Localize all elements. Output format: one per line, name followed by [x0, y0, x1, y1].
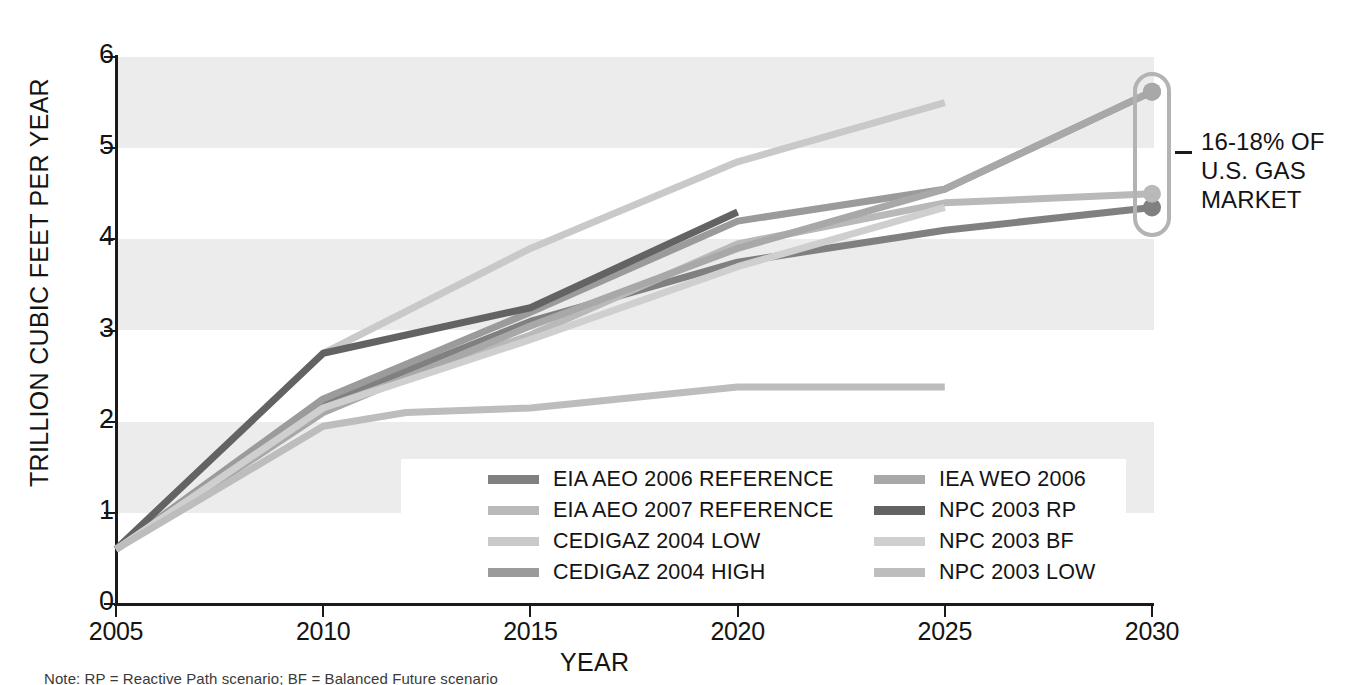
legend-item: CEDIGAZ 2004 LOW	[488, 527, 805, 555]
legend-item: EIA AEO 2006 REFERENCE	[488, 465, 805, 493]
chart-canvas: 6543210 200520102015202020252030 TRILLIO…	[0, 0, 1359, 685]
legend-label: NPC 2003 RP	[939, 498, 1076, 523]
legend-column-left: EIA AEO 2006 REFERENCEEIA AEO 2007 REFER…	[401, 459, 805, 592]
legend-item: NPC 2003 RP	[874, 496, 1126, 524]
legend-swatch	[488, 475, 539, 484]
callout-line-3: MARKET	[1201, 185, 1351, 214]
legend-label: IEA WEO 2006	[939, 467, 1086, 492]
chart-legend: EIA AEO 2006 REFERENCEEIA AEO 2007 REFER…	[401, 459, 1126, 592]
legend-item: NPC 2003 BF	[874, 527, 1126, 555]
legend-column-right: IEA WEO 2006NPC 2003 RPNPC 2003 BFNPC 20…	[805, 459, 1126, 592]
legend-label: EIA AEO 2006 REFERENCE	[553, 467, 833, 492]
legend-swatch	[874, 475, 925, 484]
legend-label: CEDIGAZ 2004 HIGH	[553, 560, 766, 585]
legend-item: IEA WEO 2006	[874, 465, 1126, 493]
legend-label: EIA AEO 2007 REFERENCE	[553, 498, 833, 523]
legend-swatch	[488, 537, 539, 546]
legend-label: NPC 2003 LOW	[939, 560, 1096, 585]
legend-label: NPC 2003 BF	[939, 529, 1074, 554]
market-share-annotation: 16-18% OF U.S. GAS MARKET	[1201, 127, 1351, 214]
legend-item: NPC 2003 LOW	[874, 558, 1126, 586]
legend-item: CEDIGAZ 2004 HIGH	[488, 558, 805, 586]
legend-label: CEDIGAZ 2004 LOW	[553, 529, 761, 554]
chart-footnote: Note: RP = Reactive Path scenario; BF = …	[44, 670, 498, 685]
market-share-bracket	[1133, 72, 1171, 237]
callout-leader-line	[1175, 151, 1192, 154]
legend-swatch	[874, 537, 925, 546]
legend-swatch	[488, 506, 539, 515]
legend-swatch	[874, 568, 925, 577]
legend-swatch	[874, 506, 925, 515]
callout-line-1: 16-18% OF	[1201, 127, 1351, 156]
callout-line-2: U.S. GAS	[1201, 156, 1351, 185]
legend-item: EIA AEO 2007 REFERENCE	[488, 496, 805, 524]
legend-swatch	[488, 568, 539, 577]
